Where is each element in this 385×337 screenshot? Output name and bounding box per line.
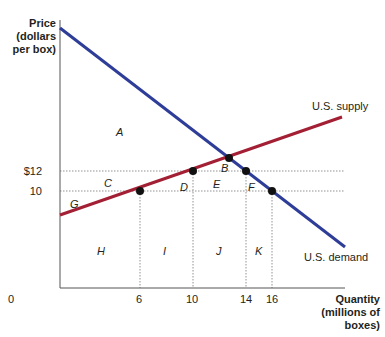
area-g: G <box>70 198 79 211</box>
x-tick-10: 10 <box>186 293 198 306</box>
area-i: I <box>163 245 166 258</box>
x-tick-14: 14 <box>240 293 252 306</box>
area-b: B <box>221 162 228 175</box>
supply-curve <box>60 117 342 215</box>
area-a: A <box>116 126 123 139</box>
x-tick-0: 0 <box>8 293 14 306</box>
area-h: H <box>97 245 105 258</box>
area-k: K <box>255 245 262 258</box>
x-tick-6: 6 <box>136 293 142 306</box>
y-tick-12: $12 <box>20 165 42 178</box>
supply-label: U.S. supply <box>312 100 368 113</box>
x-axis-title: Quantity(millions ofboxes) <box>300 293 380 332</box>
area-f: F <box>248 181 255 194</box>
x-tick-16: 16 <box>266 293 278 306</box>
marked-points <box>136 154 276 195</box>
y-tick-10: 10 <box>20 185 42 198</box>
chart-plot <box>0 0 385 337</box>
reference-lines <box>60 171 345 288</box>
area-c: C <box>104 177 112 190</box>
demand-label: U.S. demand <box>304 251 368 264</box>
area-d: D <box>180 181 188 194</box>
area-j: J <box>216 245 222 258</box>
y-axis-title: Price(dollarsper box) <box>0 17 56 56</box>
demand-curve <box>60 28 345 247</box>
area-e: E <box>213 178 220 191</box>
